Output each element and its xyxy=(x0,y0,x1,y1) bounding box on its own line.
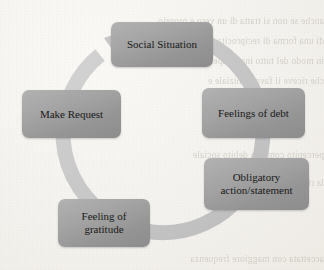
node-feeling-of-gratitude-label-line2: gratitude xyxy=(82,223,127,236)
node-social-situation[interactable]: Social Situation xyxy=(111,22,213,67)
node-feelings-of-debt[interactable]: Feelings of debt xyxy=(202,88,305,138)
node-obligatory-action-label-line2: action/statement xyxy=(220,184,292,197)
diagram-canvas: anche se non si tratta di un vero e prop… xyxy=(0,0,324,270)
node-feeling-of-gratitude[interactable]: Feeling of gratitude xyxy=(58,199,150,247)
node-make-request[interactable]: Make Request xyxy=(22,90,121,138)
node-obligatory-action-label-line1: Obligatory xyxy=(220,171,292,184)
node-social-situation-label: Social Situation xyxy=(127,38,197,51)
node-feelings-of-debt-label: Feelings of debt xyxy=(218,107,289,120)
node-obligatory-action[interactable]: Obligatory action/statement xyxy=(204,158,309,210)
node-obligatory-action-text: Obligatory action/statement xyxy=(220,171,292,197)
node-feeling-of-gratitude-text: Feeling of gratitude xyxy=(82,210,127,236)
node-feeling-of-gratitude-label-line1: Feeling of xyxy=(82,210,127,223)
node-make-request-label: Make Request xyxy=(40,108,103,121)
